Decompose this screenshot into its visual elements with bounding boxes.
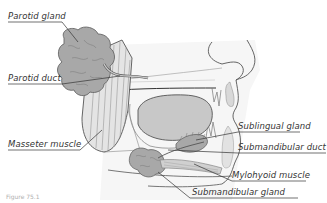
label-submandibular-duct: Submandibular duct <box>238 142 326 152</box>
label-masseter-muscle: Masseter muscle <box>8 139 81 149</box>
figure-caption: Figure 75.1 <box>6 193 40 200</box>
label-mylohyoid-muscle: Mylohyoid muscle <box>232 170 310 180</box>
label-parotid-duct: Parotid duct <box>8 73 61 83</box>
label-sublingual-gland: Sublingual gland <box>238 121 311 131</box>
label-submandibular-gland: Submandibular gland <box>192 187 285 197</box>
label-parotid-gland: Parotid gland <box>8 11 66 21</box>
